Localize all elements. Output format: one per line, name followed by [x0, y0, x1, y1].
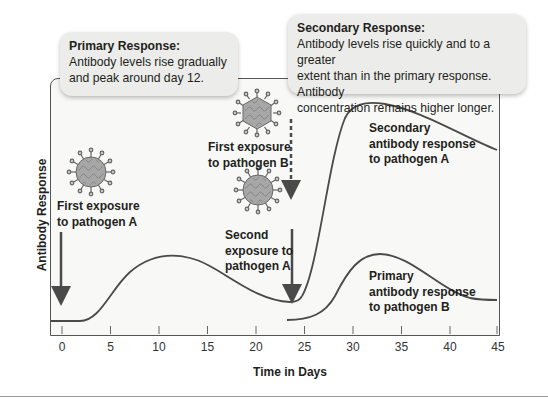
x-tick-label: 15 [196, 340, 220, 354]
label-line: Second [225, 228, 293, 244]
label-line: Primary [369, 269, 476, 285]
secondary-response-callout: Secondary Response: Antibody levels rise… [288, 14, 526, 94]
x-axis-ticks [62, 326, 497, 334]
primary-response-b-label: Primary antibody response to pathogen B [369, 269, 476, 316]
label-line: Secondary [369, 121, 476, 137]
y-axis-label: Antibody Response [35, 155, 49, 275]
label-line: First exposure [57, 199, 140, 215]
pathogen-b-virus-icon [233, 89, 281, 137]
second-exposure-a-label: Second exposure to pathogen A [225, 228, 293, 275]
primary-callout-line: and peak around day 12. [69, 70, 229, 86]
primary-callout-title: Primary Response: [69, 38, 229, 54]
primary-response-callout: Primary Response: Antibody levels rise g… [60, 32, 238, 96]
first-exposure-b-label: First exposure to pathogen B [208, 140, 291, 171]
label-line: to pathogen B [208, 156, 291, 172]
secondary-response-a-label: Secondary antibody response to pathogen … [369, 121, 476, 168]
x-tick-label: 40 [438, 340, 462, 354]
x-tick-label: 20 [244, 340, 268, 354]
x-tick-label: 10 [147, 340, 171, 354]
x-tick-label: 5 [99, 340, 123, 354]
label-line: to pathogen A [369, 152, 476, 168]
label-line: to pathogen B [369, 300, 476, 316]
first-exposure-a-label: First exposure to pathogen A [57, 199, 140, 230]
label-line: antibody response [369, 137, 476, 153]
x-axis-label: Time in Days [230, 365, 350, 379]
label-line: antibody response [369, 285, 476, 301]
pathogen-a-virus-icon-2 [234, 166, 282, 214]
primary-callout-line: Antibody levels rise gradually [69, 54, 229, 70]
pathogen-a-virus-icon [67, 148, 115, 196]
x-tick-label: 25 [293, 340, 317, 354]
secondary-callout-line: concentration remains higher longer. [297, 100, 517, 116]
secondary-callout-line: Antibody levels rise quickly and to a gr… [297, 36, 517, 68]
x-tick-label: 0 [50, 340, 74, 354]
x-tick-label: 45 [486, 340, 510, 354]
label-line: pathogen A [225, 259, 293, 275]
label-line: exposure to [225, 244, 293, 260]
secondary-callout-title: Secondary Response: [297, 20, 517, 36]
secondary-callout-line: extent than in the primary response. Ant… [297, 68, 517, 100]
label-line: First exposure [208, 140, 291, 156]
label-line: to pathogen A [57, 215, 140, 231]
bottom-divider [0, 396, 548, 397]
x-tick-label: 30 [341, 340, 365, 354]
x-tick-label: 35 [390, 340, 414, 354]
